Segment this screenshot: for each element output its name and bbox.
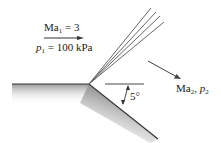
upstream-mach-label: Ma1 = 3: [44, 22, 79, 35]
expansion-corner-diagram: [0, 0, 221, 143]
pressure-subscript: 2: [205, 88, 209, 96]
pressure-value: = 100 kPa: [48, 41, 93, 53]
angle-arc: [121, 85, 130, 105]
upstream-pressure-label: p1 = 100 kPa: [36, 42, 92, 55]
mach-symbol: Ma: [176, 82, 191, 94]
expansion-fan: [89, 8, 164, 84]
mach-value: = 3: [65, 21, 79, 33]
turn-angle-label: 5°: [130, 91, 140, 102]
wall-shade-horizontal: [12, 84, 89, 104]
wall-shade-slope: [80, 84, 158, 143]
mach-symbol: Ma: [44, 21, 59, 33]
downstream-flow-arrow: [148, 61, 181, 79]
downstream-label: Ma2, p2: [176, 83, 209, 96]
pressure-subscript: 1: [42, 47, 46, 55]
mach-subscript: 1: [59, 27, 63, 35]
upstream-flow-arrow: [44, 36, 84, 40]
